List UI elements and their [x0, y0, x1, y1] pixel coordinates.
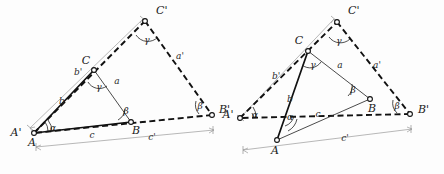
left-outer-triangle: [34, 21, 212, 133]
vertex-C-prime: [143, 19, 148, 24]
label-side-a-prime: a': [176, 51, 184, 61]
label-vertex-A-prime: A': [10, 126, 22, 139]
label-angle-gamma-C: γ: [96, 82, 102, 92]
vertex-B-prime: [408, 112, 413, 117]
left-angle-arcs: [45, 35, 199, 132]
label-angle-beta-B: β: [122, 106, 128, 116]
label-r-side-b: b: [287, 94, 293, 104]
label-r-vertex-B: B: [367, 102, 376, 115]
label-r-angle-gamma-C: γ: [310, 60, 316, 70]
label-angle-alpha-A: α: [50, 123, 56, 133]
label-r-angle-beta-B: β: [349, 85, 355, 95]
label-r-side-c: c: [315, 109, 320, 119]
label-r-vertex-C: C: [295, 34, 304, 47]
label-r-vertex-B-prime: B': [417, 103, 429, 116]
vertex-C-prime: [335, 20, 340, 25]
label-r-vertex-A: A: [270, 144, 279, 157]
right-outer-triangle: [240, 22, 410, 118]
right-vertex-markers: [238, 20, 413, 143]
label-side-c: c: [89, 130, 94, 140]
vertex-B-prime: [210, 113, 215, 118]
vertex-B: [368, 97, 373, 102]
label-angle-beta-B-prime: β: [196, 101, 202, 111]
label-side-a: a: [114, 76, 119, 86]
label-r-side-a: a: [337, 60, 342, 70]
right-dimension-guides: [237, 16, 412, 154]
label-r-angle-beta-B-prime: β: [393, 101, 399, 111]
label-r-side-c-prime: c': [341, 133, 349, 143]
label-r-vertex-A-prime: A': [222, 108, 234, 121]
label-r-angle-alpha-A: α: [287, 112, 293, 122]
label-r-angle-alpha-A-prime: α: [252, 110, 258, 120]
label-side-b-prime: b': [74, 67, 82, 77]
label-vertex-C: C: [82, 54, 91, 67]
label-vertex-A: A: [27, 136, 36, 149]
label-r-side-a-prime: a': [373, 60, 381, 70]
vertex-C: [306, 49, 311, 54]
right-diagram: [237, 16, 412, 154]
label-vertex-B: B: [131, 124, 140, 137]
geometry-figure: A A' B B' C C' a b c a' b' c' α β γ γ β …: [0, 0, 444, 174]
label-r-angle-gamma-C-prime: γ: [336, 36, 342, 46]
label-angle-gamma-C-prime: γ: [144, 35, 150, 45]
vertex-A: [32, 131, 37, 136]
left-vertex-markers: [32, 19, 215, 136]
diagram-canvas: A A' B B' C C' a b c a' b' c' α β γ γ β …: [0, 0, 444, 174]
vertex-A-prime: [238, 116, 243, 121]
label-vertex-C-prime: C': [156, 4, 167, 17]
vertex-A: [275, 138, 280, 143]
label-r-vertex-C-prime: C': [348, 4, 359, 17]
vertex-C: [92, 68, 97, 73]
label-r-side-b-prime: b': [272, 71, 280, 81]
label-side-b: b: [59, 96, 65, 106]
label-side-c-prime: c': [148, 132, 156, 142]
